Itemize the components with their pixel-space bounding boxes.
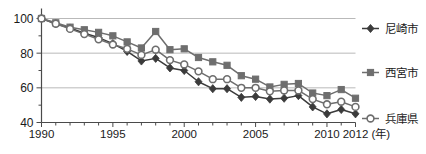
data-point <box>181 61 188 68</box>
y-axis-tick-label: 60 <box>20 81 34 95</box>
data-point <box>338 105 345 113</box>
data-point <box>153 28 159 34</box>
x-axis-unit-label: (年) <box>372 127 391 140</box>
data-point <box>166 64 173 72</box>
data-point <box>352 104 359 111</box>
chart-plot-svg: 406080100 199019952000200520102012(年) 尼崎… <box>0 0 426 154</box>
data-point <box>266 88 273 95</box>
data-point <box>252 84 259 91</box>
legend-label: 尼崎市 <box>385 22 418 36</box>
data-point <box>309 96 316 103</box>
data-point <box>152 54 159 62</box>
data-point <box>67 26 74 33</box>
legend-marker-square-icon <box>367 69 373 75</box>
data-point <box>295 87 302 94</box>
legend-label: 西宮市 <box>385 66 418 80</box>
data-point <box>152 46 159 53</box>
x-axis-tick-label: 2005 <box>243 128 269 140</box>
x-tick-marks-group <box>42 123 356 128</box>
data-point <box>167 57 174 64</box>
legend-item-2: 西宮市 <box>362 66 418 80</box>
data-point <box>324 93 330 99</box>
legend-label: 兵庫県 <box>385 112 419 126</box>
data-point <box>95 36 102 43</box>
data-series-group <box>38 14 359 118</box>
data-point <box>124 45 131 52</box>
y-axis-tick-label: 100 <box>13 12 33 26</box>
data-point <box>138 45 144 51</box>
series-2 <box>38 15 358 101</box>
y-tick-marks-group <box>37 19 42 123</box>
data-point <box>195 68 202 75</box>
x-axis-tick-label: 1990 <box>29 128 55 140</box>
data-point <box>238 84 245 91</box>
data-point <box>252 76 258 82</box>
x-axis-tick-label: 2012 <box>343 128 369 140</box>
legend-item-3: 兵庫県 <box>362 112 419 126</box>
data-point <box>124 39 130 45</box>
data-point <box>352 95 358 101</box>
data-point <box>181 46 187 52</box>
x-axis-tick-label: 2000 <box>171 128 197 140</box>
series-line <box>42 19 356 114</box>
data-point <box>138 52 145 59</box>
data-point <box>81 31 88 38</box>
data-point <box>238 73 244 79</box>
chart-legend: 尼崎市西宮市兵庫県 <box>362 22 419 126</box>
data-point <box>209 76 216 83</box>
y-axis-labels-group: 406080100 <box>13 12 33 130</box>
data-point <box>38 15 45 22</box>
data-point <box>238 93 245 101</box>
data-point <box>224 85 231 93</box>
data-point <box>209 85 216 93</box>
x-axis-tick-label: 2010 <box>314 128 340 140</box>
legend-marker-diamond-icon <box>367 24 374 32</box>
legend-marker-circle-icon <box>367 115 374 122</box>
data-point <box>210 59 216 65</box>
data-point <box>195 54 201 60</box>
data-point <box>52 20 59 27</box>
data-point <box>252 92 259 100</box>
data-point <box>281 87 288 94</box>
x-axis-labels-group: 199019952000200520102012(年) <box>29 127 391 140</box>
data-point <box>324 101 331 108</box>
line-chart: 406080100 199019952000200520102012(年) 尼崎… <box>0 0 426 154</box>
data-point <box>295 80 301 86</box>
data-point <box>281 94 288 102</box>
data-point <box>110 33 116 39</box>
data-point <box>224 76 231 83</box>
axes-group <box>42 9 356 123</box>
data-point <box>167 47 173 53</box>
data-point <box>109 41 116 48</box>
legend-item-1: 尼崎市 <box>362 22 418 36</box>
data-point <box>323 110 330 118</box>
x-axis-tick-label: 1995 <box>100 128 126 140</box>
data-point <box>338 86 344 92</box>
data-point <box>266 95 273 103</box>
data-point <box>338 98 345 105</box>
series-line <box>42 19 356 107</box>
y-axis-tick-label: 80 <box>20 47 34 61</box>
data-point <box>95 29 101 35</box>
data-point <box>224 62 230 68</box>
